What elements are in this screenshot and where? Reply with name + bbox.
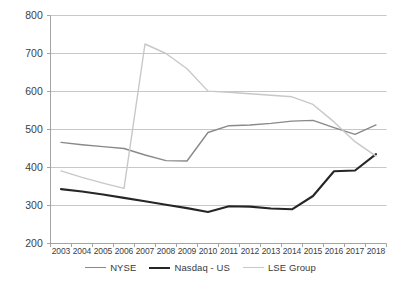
legend-swatch-icon [243,267,264,268]
legend-label: NYSE [110,262,136,273]
legend-swatch-icon [149,267,170,269]
data-series-group [61,44,376,212]
series-line-nasdaq-us [61,154,376,212]
x-tick-label-2018: 2018 [361,246,391,256]
gridlines [51,16,387,206]
chart-legend: NYSENasdaq - USLSE Group [0,262,401,273]
series-line-nyse [61,120,376,161]
y-tick-label-200: 200 [5,237,43,249]
legend-item-lse-group[interactable]: LSE Group [243,262,316,273]
series-line-lse-group [61,44,376,188]
y-tick-label-300: 300 [5,199,43,211]
legend-item-nasdaq-us[interactable]: Nasdaq - US [149,262,229,273]
line-chart: 200300400500600700800 200320042005200620… [0,0,401,291]
y-tick-label-600: 600 [5,85,43,97]
legend-swatch-icon [85,267,106,268]
legend-label: Nasdaq - US [174,262,229,273]
y-tick-label-500: 500 [5,123,43,135]
legend-item-nyse[interactable]: NYSE [85,262,136,273]
legend-label: LSE Group [268,262,316,273]
y-tick-label-400: 400 [5,161,43,173]
y-tick-label-800: 800 [5,9,43,21]
y-tick-marks [47,16,51,244]
y-tick-label-700: 700 [5,47,43,59]
